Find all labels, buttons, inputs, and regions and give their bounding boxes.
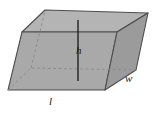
height-label: h — [76, 45, 82, 56]
geometry-figure: h l w — [0, 0, 160, 115]
prism-front-face — [8, 32, 117, 90]
oblique-prism-drawing — [0, 0, 160, 115]
length-label: l — [49, 96, 52, 107]
width-label: w — [125, 73, 132, 84]
